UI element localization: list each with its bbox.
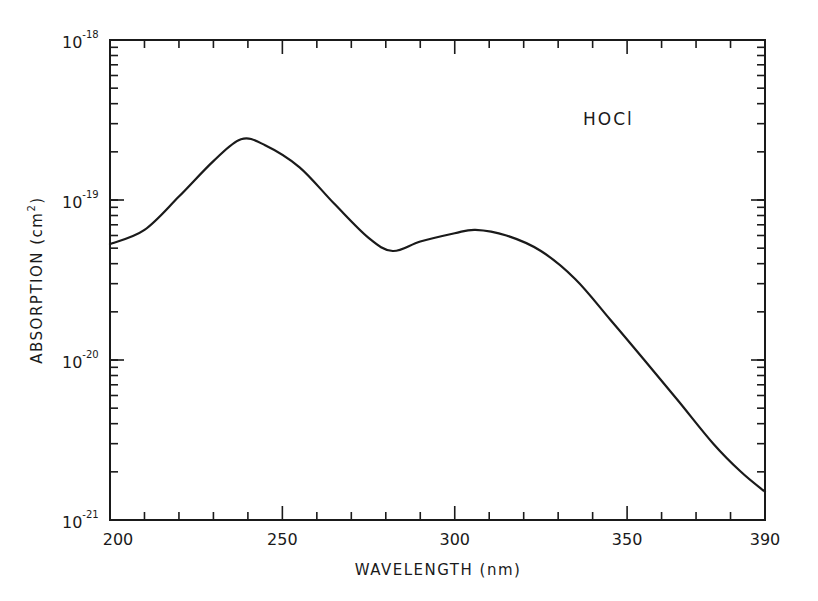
x-axis-label: WAVELENGTH (nm) [355,561,522,579]
x-tick-labels: 200250300350390 [103,530,781,549]
x-tick-label: 200 [103,530,134,549]
y-tick-label: 10-19 [62,189,99,212]
absorption-curve [110,138,765,491]
species-label: HOCl [583,109,634,129]
x-tick-label: 390 [750,530,781,549]
x-tick-label: 350 [612,530,643,549]
y-axis-label-sup: 2 [26,204,37,212]
y-axis-label-close: ) [28,196,46,203]
y-axis-label-main: ABSORPTION (cm [28,212,46,364]
y-tick-labels: 10-2110-2010-1910-18 [62,29,99,532]
y-tick-label: 10-18 [62,29,99,52]
plot-frame [110,40,765,520]
y-axis-label: ABSORPTION (cm2) [26,196,46,363]
x-tick-label: 250 [267,530,298,549]
absorption-chart: 200250300350390 10-2110-2010-1910-18 HOC… [0,0,818,601]
y-tick-label: 10-20 [62,349,99,372]
x-tick-label: 300 [439,530,470,549]
axis-ticks [110,40,765,520]
y-tick-label: 10-21 [62,509,99,532]
